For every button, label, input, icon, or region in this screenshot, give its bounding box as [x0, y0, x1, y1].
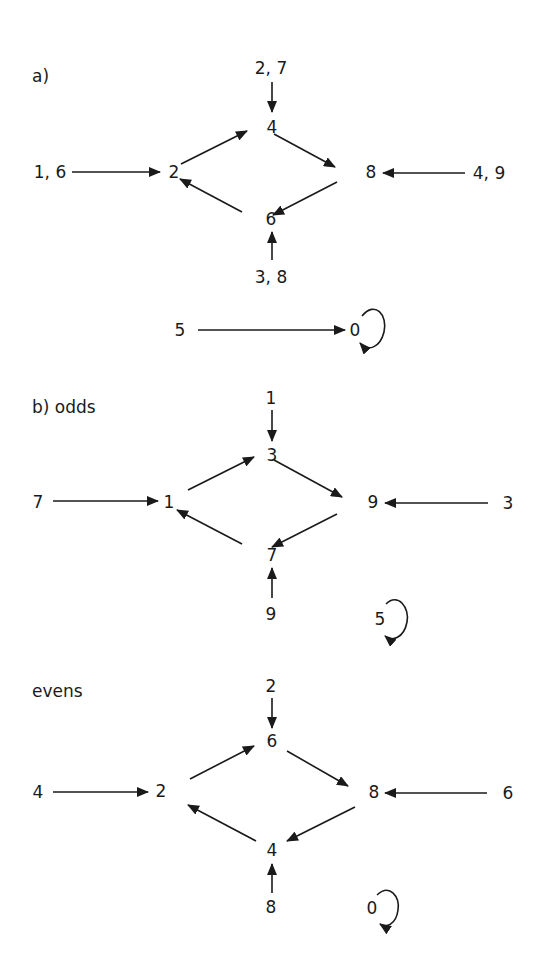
- edge-arrow: [272, 514, 337, 547]
- section-a: a) 2, 7 1, 6 4, 9 3, 8 4 2 8 6 5 0: [32, 58, 505, 348]
- node-c-left: 2: [156, 781, 167, 801]
- edge-arrow: [177, 510, 242, 544]
- node-b-self: 5: [375, 609, 386, 629]
- section-c-evens: evens 2 4 6 8 6 2 8 4 0: [32, 676, 513, 926]
- edge-arrow: [181, 131, 247, 164]
- node-c-in-bottom: 8: [266, 897, 277, 917]
- section-a-label: a): [32, 66, 49, 86]
- node-c-top: 6: [267, 731, 278, 751]
- node-a-in-top: 2, 7: [255, 58, 287, 78]
- section-b-label: b) odds: [32, 397, 96, 417]
- node-c-self: 0: [367, 898, 378, 918]
- node-c-in-right: 6: [503, 783, 514, 803]
- node-b-in-left: 7: [33, 492, 44, 512]
- edge-arrow: [180, 179, 242, 212]
- edge-arrow: [188, 457, 254, 490]
- node-b-right: 9: [368, 492, 379, 512]
- node-b-in-bottom: 9: [266, 604, 277, 624]
- edge-arrow: [274, 460, 342, 497]
- node-c-in-left: 4: [33, 782, 44, 802]
- node-b-top: 3: [267, 445, 278, 465]
- edge-arrow: [190, 746, 254, 779]
- edge-arrow: [274, 134, 335, 167]
- section-c-label: evens: [32, 681, 83, 701]
- node-a-bottom: 6: [266, 209, 277, 229]
- node-a-in-left: 1, 6: [34, 162, 66, 182]
- edge-arrow: [287, 751, 348, 786]
- node-a-in-bottom: 3, 8: [255, 267, 287, 287]
- node-b-bottom: 7: [267, 545, 278, 565]
- self-loop-arrow: [360, 309, 385, 348]
- node-a-left: 2: [169, 162, 180, 182]
- node-a-right: 8: [366, 162, 377, 182]
- self-loop-arrow: [385, 600, 407, 639]
- edge-arrow: [188, 805, 256, 841]
- node-a-in-right: 4, 9: [473, 163, 505, 183]
- mapping-diagram: a) 2, 7 1, 6 4, 9 3, 8 4 2 8 6 5 0 b) od…: [0, 0, 548, 967]
- node-a-top: 4: [267, 117, 278, 137]
- self-loop-arrow: [377, 890, 398, 925]
- node-b-in-right: 3: [503, 493, 514, 513]
- edge-arrow: [287, 807, 355, 841]
- node-c-right: 8: [369, 782, 380, 802]
- node-c-in-top: 2: [266, 676, 277, 696]
- node-b-in-top: 1: [266, 388, 277, 408]
- section-b-odds: b) odds 1 7 3 9 3 1 9 7 5: [32, 388, 513, 639]
- node-b-left: 1: [164, 492, 175, 512]
- node-c-bottom: 4: [267, 840, 278, 860]
- edge-arrow: [273, 182, 337, 215]
- node-a-iso-src: 5: [175, 320, 186, 340]
- node-a-iso-dst: 0: [350, 320, 361, 340]
